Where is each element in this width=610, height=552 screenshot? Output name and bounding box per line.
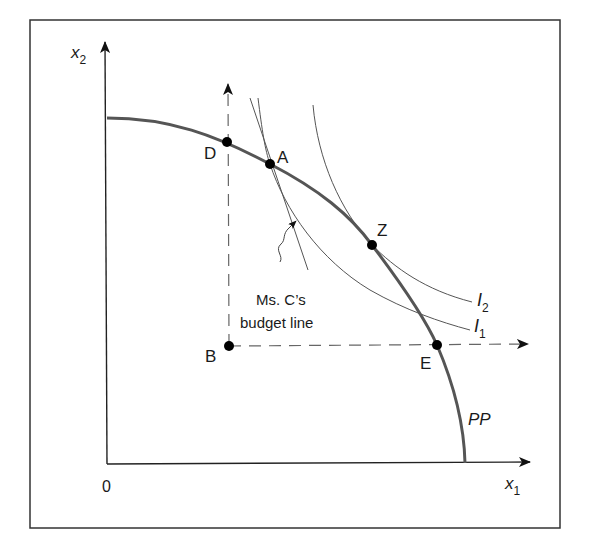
point-b [224, 341, 234, 351]
ppf-diagram: D A Z E B x2 x1 0 PP I2 I1 Ms. C’s budge… [0, 0, 610, 552]
y-axis [105, 42, 107, 464]
point-e [432, 340, 442, 350]
figure-frame [30, 20, 560, 528]
point-a [265, 159, 275, 169]
point-z [367, 240, 377, 250]
label-b: B [205, 347, 216, 366]
dashed-horizontal-from-b [229, 344, 528, 346]
label-d: D [204, 144, 216, 163]
label-z: Z [377, 221, 387, 240]
x-axis-label: x1 [504, 474, 521, 498]
origin-label: 0 [102, 478, 111, 495]
budget-line-annotation-line1: Ms. C’s [256, 291, 306, 308]
i2-label: I2 [477, 290, 489, 315]
ppf-label: PP [468, 410, 491, 429]
budget-line-annotation-line2: budget line [240, 314, 313, 331]
y-axis-label: x2 [70, 43, 87, 67]
x-axis [107, 462, 530, 464]
budget-line [250, 98, 308, 270]
i1-label: I1 [474, 316, 486, 341]
label-a: A [277, 148, 289, 167]
point-d [222, 137, 232, 147]
dashed-vertical-from-b [228, 84, 229, 346]
label-e: E [420, 354, 431, 373]
